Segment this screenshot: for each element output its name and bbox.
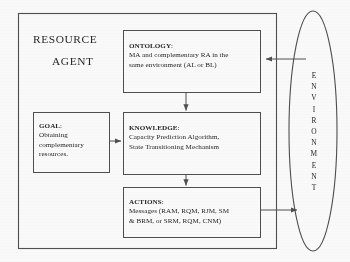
actions-header-colon: : xyxy=(162,198,164,206)
actions-box-text: ACTIONS: Messages (RAM, RQM, RJM, SM & B… xyxy=(129,198,259,226)
goal-box-text: GOAL: Obtaining complementary resources. xyxy=(39,122,109,160)
knowledge-box-text: KNOWLEDGE: Capacity Prediction Algorithm… xyxy=(129,124,257,152)
ontology-header: ONTOLOGY xyxy=(129,42,171,50)
ontology-line-2: same environment (AL or BL) xyxy=(129,61,257,70)
knowledge-header-row: KNOWLEDGE: xyxy=(129,124,257,133)
diagram-canvas: RESOURCE AGENT ONTOLOGY: MA and compleme… xyxy=(0,0,350,262)
agent-title-line-2: AGENT xyxy=(52,55,94,67)
knowledge-header-colon: : xyxy=(178,124,180,132)
ontology-header-colon: : xyxy=(171,42,173,50)
goal-header: GOAL xyxy=(39,122,60,130)
knowledge-line-1: Capacity Prediction Algorithm, xyxy=(129,133,257,142)
goal-line-3: resources. xyxy=(39,150,109,159)
environment-letter: O xyxy=(305,126,323,137)
ontology-box-text: ONTOLOGY: MA and complementary RA in the… xyxy=(129,42,257,70)
actions-line-2: & BRM, or SRM, RQM, CNM) xyxy=(129,217,259,226)
environment-letter: M xyxy=(305,148,323,159)
environment-letter: N xyxy=(305,171,323,182)
goal-line-2: complementary xyxy=(39,141,109,150)
environment-label: E N V I R O N M E N T xyxy=(305,70,323,193)
knowledge-header: KNOWLEDGE xyxy=(129,124,178,132)
actions-header: ACTIONS xyxy=(129,198,162,206)
environment-letter: V xyxy=(305,92,323,103)
actions-line-1: Messages (RAM, RQM, RJM, SM xyxy=(129,207,259,216)
ontology-header-row: ONTOLOGY: xyxy=(129,42,257,51)
knowledge-line-2: State Transitioning Mechanism xyxy=(129,143,257,152)
environment-letter: N xyxy=(305,81,323,92)
environment-letter: T xyxy=(305,182,323,193)
agent-title-line-1: RESOURCE xyxy=(33,33,97,45)
goal-header-colon: : xyxy=(60,122,62,130)
environment-letter: E xyxy=(305,70,323,81)
goal-line-1: Obtaining xyxy=(39,131,109,140)
environment-letter: R xyxy=(305,115,323,126)
goal-header-row: GOAL: xyxy=(39,122,109,131)
environment-letter: E xyxy=(305,160,323,171)
ontology-line-1: MA and complementary RA in the xyxy=(129,51,257,60)
environment-letter: N xyxy=(305,137,323,148)
actions-header-row: ACTIONS: xyxy=(129,198,259,207)
environment-letter: I xyxy=(305,104,323,115)
